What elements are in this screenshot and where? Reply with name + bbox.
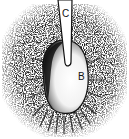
diagram-figure: C B (0, 0, 129, 139)
label-b: B (78, 72, 85, 82)
illustration (0, 0, 129, 139)
label-c: C (62, 9, 69, 19)
